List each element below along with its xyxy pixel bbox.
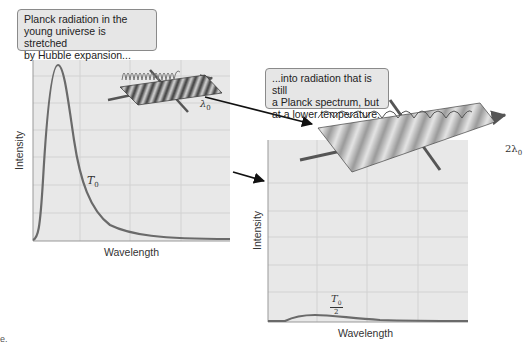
- caption-top-left: Planck radiation in the young universe i…: [17, 9, 157, 51]
- right-wavelength-label: 2λ0: [505, 143, 522, 157]
- caption-line: ...into radiation that is still: [272, 72, 382, 96]
- caption-top-right: ...into radiation that is still a Planck…: [265, 68, 389, 109]
- caption-line: a Planck spectrum, but: [272, 96, 382, 108]
- left-y-axis-label: Intensity: [13, 131, 25, 170]
- right-x-axis-label: Wavelength: [338, 327, 393, 339]
- left-x-axis-label: Wavelength: [104, 246, 159, 258]
- left-curve-label: T0: [87, 174, 99, 189]
- right-curve-label: T0 2: [330, 294, 343, 317]
- lambda-sub: 0: [518, 149, 522, 157]
- left-wavelength-label: λ0: [200, 98, 211, 112]
- corner-fragment-text: e.: [0, 334, 8, 344]
- lambda-symbol: 2λ: [505, 143, 518, 154]
- arrow-to-right-chart: [233, 172, 264, 181]
- right-y-axis-label: Intensity: [251, 211, 263, 250]
- curve-label-denominator: 2: [330, 308, 343, 317]
- curve-label-sub: 0: [94, 181, 98, 189]
- curve-label-t: T: [331, 293, 338, 304]
- caption-line: at a lower temperature.: [272, 108, 382, 120]
- caption-line: young universe is stretched: [24, 25, 150, 49]
- lambda-sub: 0: [206, 104, 210, 112]
- caption-line: by Hubble expansion...: [24, 49, 150, 61]
- caption-line: Planck radiation in the: [24, 13, 150, 25]
- curve-label-sub: 0: [338, 299, 342, 306]
